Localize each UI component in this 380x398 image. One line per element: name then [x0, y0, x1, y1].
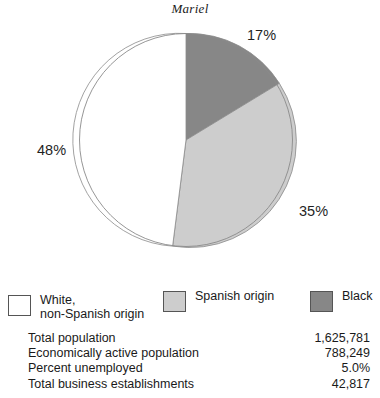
legend-label-spanish-origin: Spanish origin	[195, 290, 274, 304]
table-row: Percent unemployed 5.0%	[28, 361, 370, 376]
statistics-table: Total population 1,625,781 Economically …	[28, 331, 370, 392]
stat-value-total-business-establishments: 42,817	[332, 377, 370, 392]
legend-item-spanish-origin: Spanish origin	[163, 290, 274, 312]
legend-swatch-spanish-origin	[163, 291, 186, 312]
legend-item-white-non-spanish-origin: White, non-Spanish origin	[8, 294, 144, 321]
legend-label-black: Black	[342, 290, 373, 304]
pie-slice-white-non-spanish	[73, 33, 186, 246]
pie-label-white-non-spanish: 48%	[37, 142, 66, 158]
legend: White, non-Spanish origin Spanish origin…	[0, 288, 380, 328]
pie-label-spanish-origin: 35%	[299, 203, 328, 219]
legend-label-white-non-spanish-origin: White, non-Spanish origin	[40, 294, 144, 321]
legend-swatch-white	[8, 295, 31, 316]
stat-label-economically-active-population: Economically active population	[28, 346, 199, 361]
table-row: Total population 1,625,781	[28, 331, 370, 346]
table-row: Total business establishments 42,817	[28, 377, 370, 392]
pie-label-black: 17%	[247, 27, 276, 43]
stat-label-total-population: Total population	[28, 331, 116, 346]
legend-item-black: Black	[310, 290, 373, 312]
pie-chart: 17% 35% 48%	[0, 0, 380, 272]
stat-value-economically-active-population: 788,249	[325, 346, 370, 361]
pie-chart-svg	[0, 0, 380, 272]
stat-label-total-business-establishments: Total business establishments	[28, 377, 194, 392]
stat-value-percent-unemployed: 5.0%	[342, 361, 371, 376]
stat-value-total-population: 1,625,781	[314, 331, 370, 346]
table-row: Economically active population 788,249	[28, 346, 370, 361]
stat-label-percent-unemployed: Percent unemployed	[28, 361, 143, 376]
legend-swatch-black	[310, 291, 333, 312]
